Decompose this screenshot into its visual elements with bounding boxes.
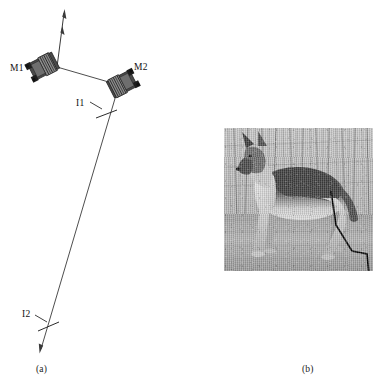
photo-grass [224, 214, 373, 271]
incoming-beam [57, 9, 66, 67]
panel-a-optical-diagram: M1 M2 I1 I2 (a) [0, 0, 190, 386]
panel-b-photograph: (b) [190, 0, 382, 386]
label-m2: M2 [134, 62, 148, 72]
figure-root: M1 M2 I1 I2 (a) [0, 0, 382, 386]
photo-content [224, 128, 373, 271]
mirror-mount-m1 [24, 51, 60, 82]
mirror-mount-m2 [106, 68, 141, 99]
german-shepherd-photo [224, 128, 373, 271]
i1-leader-line [90, 102, 102, 109]
optical-setup-drawing [0, 0, 190, 386]
i2-leader-line [35, 315, 47, 322]
caption-panel-a: (a) [36, 364, 47, 374]
i1-tick-marker [96, 110, 117, 118]
m2-to-i2-beam [39, 85, 119, 354]
label-i1: I1 [76, 98, 85, 108]
label-m1: M1 [10, 63, 24, 73]
caption-panel-b: (b) [302, 364, 314, 374]
label-i2: I2 [22, 309, 31, 319]
